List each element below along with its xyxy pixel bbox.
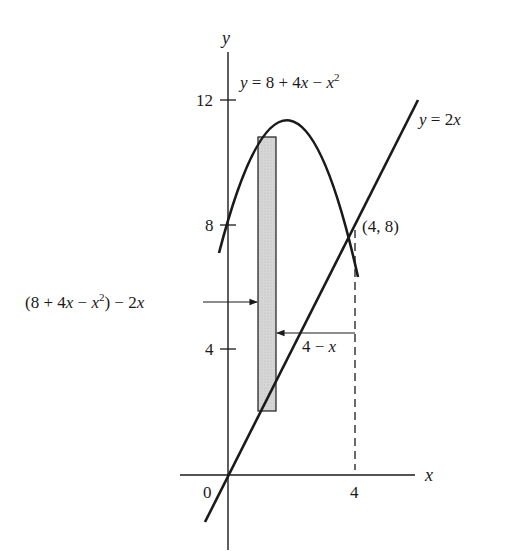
- y-axis-label: y: [220, 28, 230, 48]
- x-axis-label: x: [424, 465, 433, 485]
- line-y-2x: [205, 100, 418, 522]
- parabola-equation-label: y = 8 + 4x − x2: [238, 71, 339, 92]
- area-between-curves-diagram: y x 0 4 12 8 4 y = 8 + 4x − x2 y = 2x (4…: [0, 0, 505, 553]
- height-annotation-label: (8 + 4x − x2) − 2x: [25, 291, 145, 312]
- line-equation-label: y = 2x: [417, 110, 461, 129]
- y-tick-label-12: 12: [196, 91, 213, 110]
- width-annotation-label: 4 − x: [302, 337, 337, 356]
- representative-strip: [258, 137, 276, 411]
- origin-label: 0: [203, 483, 212, 502]
- x-tick-label-4: 4: [350, 483, 359, 502]
- y-tick-label-8: 8: [205, 216, 214, 235]
- y-tick-label-4: 4: [205, 340, 214, 359]
- intersection-label: (4, 8): [362, 217, 399, 236]
- parabola-curve: [219, 120, 358, 277]
